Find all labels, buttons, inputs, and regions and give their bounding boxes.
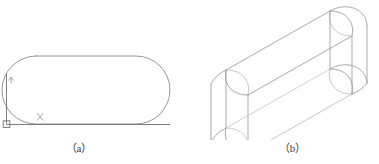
top-face-left-cap-arc-back (226, 70, 249, 95)
figure-a-drawing: Y X (0, 0, 190, 140)
bottom-face-right-cap-arc-back (329, 69, 352, 94)
figure-b-caption: （b） (198, 139, 379, 155)
bottom-face-near-edge (248, 94, 352, 140)
ucs-indicator (3, 74, 170, 127)
y-axis-marker-glyph (9, 77, 14, 83)
right-cap-outer-arc-bottom (330, 65, 367, 83)
figure-sheet: Y X （a） (0, 0, 379, 164)
bottom-face-right-cap-arc (330, 69, 353, 94)
top-face-left-cap-arc (225, 70, 248, 95)
left-cap-outer-arc-top (211, 70, 226, 84)
figure-b-drawing (190, 0, 379, 140)
top-face-far-edge (226, 11, 330, 70)
figure-a-caption: （a） (0, 139, 174, 155)
figure-panel-a: Y X （a） (0, 0, 190, 164)
top-face-right-cap-arc-back (329, 11, 352, 36)
x-axis-marker-glyph (37, 113, 43, 121)
right-cap-lower-arc-front (352, 83, 367, 94)
right-cap-outer-arc-top (330, 7, 367, 25)
figure-panel-b: （b） (190, 0, 379, 164)
top-face-right-cap-arc (330, 11, 353, 36)
slot-outline-path (2, 56, 170, 124)
